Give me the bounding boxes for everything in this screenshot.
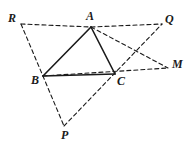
vertex-label-A: A <box>86 10 94 22</box>
segment-AM <box>91 27 168 68</box>
vertex-label-M: M <box>172 58 183 70</box>
vertex-label-Q: Q <box>165 13 174 25</box>
segment-AC <box>91 27 115 74</box>
segment-AQ <box>91 24 162 27</box>
segment-AB <box>43 27 91 76</box>
vertex-label-P: P <box>61 129 68 141</box>
geometry-figure: A B C P Q R M <box>0 0 193 154</box>
vertex-label-B: B <box>31 74 39 86</box>
vertex-label-C: C <box>117 75 125 87</box>
segment-RA <box>21 24 91 27</box>
segment-BC <box>43 74 115 76</box>
vertex-label-R: R <box>8 12 16 24</box>
